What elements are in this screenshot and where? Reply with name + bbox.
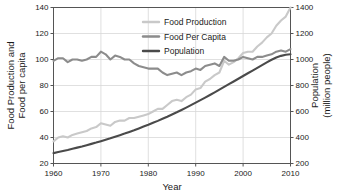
ytick-label-right: 1400 [296, 3, 314, 12]
y2-axis-title-line1: Population [309, 63, 320, 108]
tick-labels: 2040608010012014020040060080010001200140… [35, 3, 314, 177]
ytick-label-left: 60 [40, 107, 49, 116]
ytick-label-left: 40 [40, 133, 49, 142]
xtick-label: 2010 [282, 169, 300, 178]
ytick-label-right: 600 [296, 107, 310, 116]
chart-figure: 2040608010012014020040060080010001200140… [0, 0, 341, 196]
ytick-label-right: 200 [296, 159, 310, 168]
xtick-label: 1980 [139, 169, 157, 178]
ytick-label-left: 20 [40, 159, 49, 168]
ytick-label-right: 800 [296, 81, 310, 90]
xtick-label: 2000 [234, 169, 252, 178]
ytick-label-left: 100 [35, 55, 49, 64]
ytick-label-right: 1000 [296, 55, 314, 64]
legend-label-food-per-capita: Food Per Capita [164, 32, 226, 42]
y-axis-title-line2: Food per capita [16, 52, 27, 119]
xtick-label: 1960 [45, 169, 63, 178]
ytick-label-left: 120 [35, 29, 49, 38]
xtick-label: 1990 [187, 169, 205, 178]
ytick-label-left: 80 [40, 81, 49, 90]
legend-label-food-production: Food Production [164, 17, 227, 27]
y-axis-title-line1: Food Production and [5, 41, 16, 129]
x-axis-title: Year [162, 181, 181, 192]
data-series [54, 8, 291, 154]
legend-label-population: Population [164, 46, 204, 56]
chart-legend: Food ProductionFood Per CapitaPopulation [143, 17, 227, 56]
line-chart: 2040608010012014020040060080010001200140… [0, 0, 341, 196]
series-line-population [54, 54, 291, 153]
ytick-label-right: 1200 [296, 29, 314, 38]
ytick-label-left: 140 [35, 3, 49, 12]
xtick-label: 1970 [92, 169, 110, 178]
ytick-label-right: 400 [296, 133, 310, 142]
y2-axis-title-line2: (million people) [321, 53, 332, 117]
